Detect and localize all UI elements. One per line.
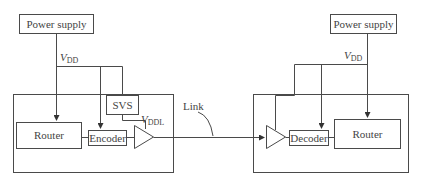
decoder-label: Decoder [289,130,329,146]
vddl-label: VDDL [141,114,164,127]
driver-triangle-icon [135,126,154,149]
encoder-label: Encoder [88,130,127,146]
svs-label: SVS [106,95,139,115]
link-leader-curve [198,112,213,136]
right-power-supply-label: Power supply [330,14,397,34]
right-vdd-horizontal-line [295,65,368,95]
right-router-label: Router [334,119,401,149]
left-power-supply-label: Power supply [19,14,94,34]
vddl-main: V [141,113,148,125]
link-label: Link [183,101,204,112]
left-vdd-label: VDD [60,52,78,65]
left-router-label: Router [16,122,82,149]
right-vdd-label: VDD [344,50,362,63]
right-vdd-main: V [344,49,351,61]
left-vdd-to-svs-line [57,67,123,96]
vddl-sub: DDL [148,118,164,127]
left-vdd-sub: DD [67,56,79,65]
right-receiver-supply-line [276,95,295,131]
left-vdd-main: V [60,51,67,63]
right-vdd-sub: DD [351,54,363,63]
